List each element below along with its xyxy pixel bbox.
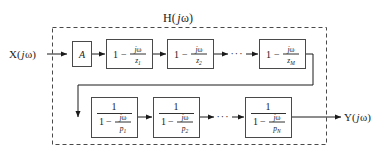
pole-block-2-numerator: 1 — [174, 101, 179, 112]
zero-block-2[interactable]: 1 − jω z2 — [168, 40, 214, 69]
pole-block-1-lead: 1 — [99, 116, 104, 127]
pole-block-n[interactable]: 1 1 − jω pN — [246, 98, 292, 138]
output-y: Y( — [344, 111, 356, 124]
zero-block-1-operator: − — [121, 49, 127, 60]
pole-block-1-operator: − — [106, 116, 112, 127]
zero-block-1-numerator: jω — [133, 45, 141, 54]
svg-text:X(jω): X(jω) — [9, 48, 36, 61]
pole-block-2[interactable]: 1 1 − jω p2 — [154, 98, 200, 138]
pole-row-ellipsis: ··· — [217, 111, 230, 122]
zero-block-1[interactable]: 1 − jω z1 — [107, 40, 153, 69]
zero-block-m-lead: 1 — [266, 49, 271, 60]
pole-block-2-operator: − — [168, 116, 174, 127]
pole-block-2-inner-numerator: jω — [180, 113, 188, 122]
zero-block-2-numerator: jω — [194, 45, 202, 54]
svg-text:H(jω): H(jω) — [163, 11, 193, 25]
input-x: X( — [9, 48, 21, 61]
output-label: Y(jω) — [344, 111, 371, 124]
output-omega: ω — [360, 111, 367, 123]
title-h: H( — [163, 11, 176, 25]
title-omega: ω — [181, 11, 189, 25]
pole-block-n-lead: 1 — [253, 116, 258, 127]
gain-block-label: A — [78, 49, 86, 60]
system-title: H(jω) — [163, 11, 193, 25]
title-close: ) — [189, 11, 193, 25]
zero-block-m-operator: − — [274, 49, 280, 60]
gain-block[interactable]: A — [73, 42, 92, 67]
input-label: X(jω) — [9, 48, 36, 61]
zero-block-1-lead: 1 — [113, 49, 118, 60]
block-diagram: H(jω) X(jω) Y(jω) A 1 — [0, 0, 379, 158]
zero-block-2-operator: − — [182, 49, 188, 60]
pole-block-1-numerator: 1 — [112, 101, 117, 112]
zero-row-ellipsis: ··· — [231, 48, 244, 59]
pole-block-2-lead: 1 — [161, 116, 166, 127]
figure-canvas: H(jω) X(jω) Y(jω) A 1 — [0, 0, 379, 158]
zero-block-2-lead: 1 — [174, 49, 179, 60]
zero-block-m[interactable]: 1 − jω zM — [260, 40, 306, 69]
pole-block-1-inner-numerator: jω — [118, 113, 126, 122]
pole-block-1[interactable]: 1 1 − jω p1 — [92, 98, 138, 138]
pole-block-n-operator: − — [260, 116, 266, 127]
zero-block-m-numerator: jω — [286, 45, 294, 54]
svg-text:Y(jω): Y(jω) — [344, 111, 371, 124]
input-omega: ω — [25, 48, 32, 60]
pole-block-n-numerator: 1 — [266, 101, 271, 112]
pole-block-n-inner-numerator: jω — [272, 113, 280, 122]
